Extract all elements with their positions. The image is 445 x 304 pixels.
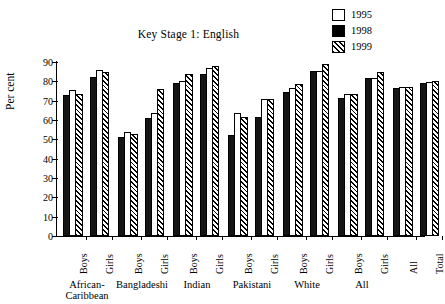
x-axis-category-label: Boys <box>298 253 309 274</box>
bar-1999 <box>240 117 247 236</box>
x-axis-category-label: All <box>408 261 419 274</box>
bar-cluster <box>420 62 442 236</box>
bar-1999 <box>102 72 109 236</box>
x-axis-category-label: Girls <box>379 254 390 274</box>
x-axis-category-label: Girls <box>159 254 170 274</box>
bar-1999 <box>432 81 439 236</box>
group-label-line2: Caribbean <box>42 290 132 301</box>
x-axis-category-label: Boys <box>353 253 364 274</box>
x-tick-mark <box>86 236 87 240</box>
bar-1999 <box>377 72 384 236</box>
bar-1999 <box>75 94 82 236</box>
x-tick-mark <box>196 236 197 240</box>
bar-1999 <box>405 87 412 236</box>
chart-legend: 1995 1998 1999 <box>332 8 372 53</box>
chart-title-text: Key Stage 1: English <box>138 28 239 40</box>
bar-1998 <box>255 117 262 236</box>
x-tick-mark <box>112 236 113 240</box>
y-tick-label: 70 <box>43 95 53 106</box>
bar-1999 <box>267 99 274 236</box>
y-tick-label: 90 <box>43 57 53 68</box>
x-tick-mark <box>442 236 443 240</box>
bar-1998 <box>173 83 180 236</box>
bar-1999 <box>157 89 164 236</box>
bar-cluster <box>255 62 277 236</box>
bar-cluster <box>310 62 332 236</box>
bar-1999 <box>185 74 192 236</box>
bar-cluster <box>118 62 140 236</box>
y-tick-label: 0 <box>48 231 53 242</box>
bar-1999 <box>130 134 137 236</box>
x-tick-mark <box>251 236 252 240</box>
bar-1998 <box>118 137 125 236</box>
bar-cluster <box>338 62 360 236</box>
bar-cluster <box>63 62 85 236</box>
bar-cluster <box>173 62 195 236</box>
x-axis-group-label: All <box>317 279 407 290</box>
legend-swatch-1998-icon <box>332 25 345 37</box>
legend-label-1998: 1998 <box>351 25 372 37</box>
y-tick-label: 20 <box>43 192 53 203</box>
bar-cluster <box>200 62 222 236</box>
x-axis-category-label: Girls <box>104 254 115 274</box>
bar-cluster <box>145 62 167 236</box>
x-axis-category-label: Girls <box>269 254 280 274</box>
plot-area: 0102030405060708090 <box>57 62 424 236</box>
bar-cluster <box>393 62 415 236</box>
x-axis-category-label: Boys <box>133 253 144 274</box>
bar-1999 <box>322 64 329 236</box>
bar-1998 <box>283 92 290 236</box>
y-tick-label: 50 <box>43 134 53 145</box>
bar-1998 <box>145 118 152 236</box>
bar-1998 <box>200 74 207 236</box>
x-tick-mark <box>332 236 333 240</box>
bar-1998 <box>63 95 70 236</box>
x-tick-mark <box>222 236 223 240</box>
bar-1998 <box>365 78 372 236</box>
legend-item-1998: 1998 <box>332 24 372 37</box>
bar-1998 <box>228 135 235 236</box>
y-tick-label: 80 <box>43 76 53 87</box>
y-tick-label: 10 <box>43 211 53 222</box>
bar-cluster <box>90 62 112 236</box>
y-tick-label: 40 <box>43 153 53 164</box>
x-tick-mark <box>167 236 168 240</box>
y-axis-title: Per cent <box>4 73 16 110</box>
x-axis-category-label: Girls <box>214 254 225 274</box>
bar-1998 <box>420 83 427 236</box>
x-tick-mark <box>387 236 388 240</box>
bar-1999 <box>350 94 357 236</box>
bar-1998 <box>90 77 97 237</box>
x-axis-category-label: Total <box>434 254 445 274</box>
legend-item-1999: 1999 <box>332 40 372 53</box>
x-tick-mark <box>141 236 142 240</box>
x-tick-mark <box>361 236 362 240</box>
group-label-line1: All <box>317 279 407 290</box>
bar-1998 <box>393 88 400 236</box>
legend-swatch-1999-icon <box>332 41 345 53</box>
bar-1999 <box>295 84 302 236</box>
bar-cluster <box>228 62 250 236</box>
legend-item-1995: 1995 <box>332 8 372 21</box>
bar-1998 <box>310 71 317 236</box>
x-axis-category-label: Girls <box>324 254 335 274</box>
legend-label-1999: 1999 <box>351 41 372 53</box>
y-tick-label: 60 <box>43 115 53 126</box>
x-tick-mark <box>277 236 278 240</box>
x-axis-category-label: Boys <box>188 253 199 274</box>
x-axis-category-label: Boys <box>243 253 254 274</box>
x-tick-mark <box>306 236 307 240</box>
x-axis-category-label: Boys <box>78 253 89 274</box>
bar-1999 <box>212 66 219 236</box>
bar-1998 <box>338 98 345 236</box>
bar-cluster <box>283 62 305 236</box>
x-tick-mark <box>416 236 417 240</box>
legend-label-1995: 1995 <box>351 9 372 21</box>
legend-swatch-1995-icon <box>332 9 345 21</box>
bar-cluster <box>365 62 387 236</box>
y-tick-label: 30 <box>43 173 53 184</box>
